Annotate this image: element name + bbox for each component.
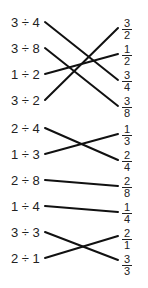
fraction-denominator: 4 xyxy=(122,214,132,225)
fraction-denominator: 3 xyxy=(122,266,132,277)
division-expression: 1 ÷ 2 xyxy=(11,68,40,82)
connection-line xyxy=(45,28,118,100)
division-expression: 2 ÷ 8 xyxy=(11,174,40,188)
fraction-denominator: 2 xyxy=(122,30,132,41)
division-expression: 2 ÷ 4 xyxy=(11,122,40,136)
fraction: 21 xyxy=(122,228,132,251)
fraction-denominator: 8 xyxy=(122,188,132,199)
fraction: 13 xyxy=(122,124,132,147)
division-expression: 3 ÷ 4 xyxy=(11,16,40,30)
fraction: 33 xyxy=(122,254,132,277)
division-expression: 3 ÷ 8 xyxy=(11,42,40,56)
division-expression: 2 ÷ 1 xyxy=(11,252,40,266)
division-expression: 3 ÷ 2 xyxy=(11,94,40,108)
fraction: 34 xyxy=(122,70,132,93)
connection-line xyxy=(45,206,118,212)
division-expression: 1 ÷ 4 xyxy=(11,200,40,214)
division-expression: 3 ÷ 3 xyxy=(11,226,40,240)
fraction-denominator: 3 xyxy=(122,136,132,147)
fraction: 24 xyxy=(122,150,132,173)
fraction: 28 xyxy=(122,176,132,199)
connection-line xyxy=(45,180,118,186)
fraction-denominator: 4 xyxy=(122,162,132,173)
fraction-denominator: 2 xyxy=(122,56,132,67)
fraction: 14 xyxy=(122,202,132,225)
fraction: 32 xyxy=(122,18,132,41)
connection-line xyxy=(45,134,118,154)
fraction-denominator: 1 xyxy=(122,240,132,251)
fraction-denominator: 8 xyxy=(122,108,132,119)
division-expression: 1 ÷ 3 xyxy=(11,148,40,162)
fraction: 12 xyxy=(122,44,132,67)
fraction: 38 xyxy=(122,96,132,119)
connection-line xyxy=(45,236,118,258)
fraction-denominator: 4 xyxy=(122,82,132,93)
